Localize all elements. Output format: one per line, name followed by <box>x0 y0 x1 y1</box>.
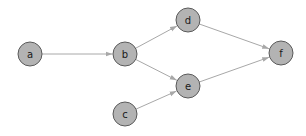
edge-e-f <box>199 57 269 82</box>
node-label: b <box>122 49 128 60</box>
node-b: b <box>113 42 137 66</box>
node-label: f <box>279 48 283 59</box>
directed-graph: abcdef <box>0 0 306 136</box>
edge-b-d <box>136 26 177 48</box>
node-a: a <box>18 42 42 66</box>
edge-c-e <box>136 91 177 109</box>
node-label: e <box>185 81 191 92</box>
edges-layer <box>42 24 269 109</box>
node-d: d <box>176 8 200 32</box>
edge-d-f <box>199 24 269 49</box>
node-label: d <box>185 15 191 26</box>
node-label: c <box>122 109 128 120</box>
node-e: e <box>176 74 200 98</box>
node-label: a <box>27 49 33 60</box>
nodes-layer: abcdef <box>18 8 293 126</box>
node-c: c <box>113 102 137 126</box>
node-f: f <box>269 41 293 65</box>
edge-b-e <box>136 59 177 80</box>
